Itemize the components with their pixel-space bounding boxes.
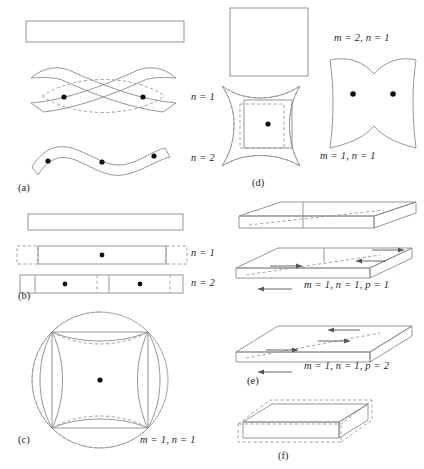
panel-c-bulge-right bbox=[148, 332, 160, 428]
panel-e-p2-arrow-bottom-left bbox=[258, 370, 292, 375]
panel-b-n1-left-dashed bbox=[17, 246, 38, 264]
panel-c-inner-left bbox=[52, 332, 63, 428]
panel-f-group bbox=[238, 400, 372, 442]
panel-b-n1-right-dashed bbox=[166, 246, 187, 264]
panel-b-mode-n2 bbox=[20, 275, 183, 293]
panel-c-bulge-top bbox=[52, 332, 148, 344]
panel-c-circle-dashed-left bbox=[32, 312, 100, 430]
panel-b-group bbox=[17, 214, 187, 293]
panel-c-inner-bottom bbox=[52, 419, 148, 428]
panel-a-mode-n2 bbox=[32, 147, 170, 176]
panel-a-label-n1: n = 1 bbox=[191, 91, 215, 102]
panel-d-mode-m1n1 bbox=[222, 86, 300, 166]
panel-e-p1-side-face bbox=[370, 248, 412, 278]
panel-a-node-dot bbox=[45, 158, 50, 163]
panel-b-label-n2: n = 2 bbox=[191, 277, 215, 288]
panel-f-side-face bbox=[339, 404, 368, 438]
panel-a-caption: (a) bbox=[18, 182, 30, 193]
panel-b-node-dot bbox=[100, 253, 105, 258]
panel-d-label-mode-m1n1: m = 1, n = 1 bbox=[320, 150, 376, 161]
panel-e-p1-front-face bbox=[236, 268, 370, 278]
panel-e-hidden-edge bbox=[249, 210, 384, 225]
panel-c-bulge-bottom bbox=[52, 416, 148, 428]
figure-canvas bbox=[0, 0, 424, 469]
panel-d-label-mode-m2n1: m = 2, n = 1 bbox=[334, 32, 390, 43]
panel-d-node-dot bbox=[350, 91, 356, 97]
panel-e-p1-hidden-edge bbox=[246, 255, 380, 275]
panel-e-top-face bbox=[239, 202, 416, 216]
panel-e-label-mode-p2: m = 1, n = 1, p = 2 bbox=[304, 360, 389, 371]
panel-c-label-mode: m = 1, n = 1 bbox=[140, 434, 196, 445]
panel-c-node-dot bbox=[97, 377, 102, 382]
panel-a-mode-n1 bbox=[31, 68, 176, 113]
panel-a-node-dot bbox=[61, 94, 66, 99]
panel-a-envelope-upper bbox=[42, 80, 165, 97]
panel-e-front-face bbox=[239, 216, 374, 228]
panel-b-caption: (b) bbox=[18, 290, 30, 301]
panel-c-inner-top bbox=[52, 332, 148, 341]
panel-f-dashed-side bbox=[341, 400, 372, 442]
panel-c-circle-dashed-bottom bbox=[54, 430, 146, 448]
panel-d-m2n1-shape bbox=[330, 59, 416, 148]
panel-e-p2-arrow-top-left bbox=[328, 328, 360, 333]
panel-d-node-dot bbox=[265, 121, 270, 126]
panel-b-label-n1: n = 1 bbox=[191, 247, 215, 258]
panel-e-p2-hidden-edge bbox=[246, 333, 380, 358]
panel-a-group bbox=[26, 21, 184, 175]
panel-b-mode-n1 bbox=[17, 246, 187, 264]
panel-d-undeformed-square bbox=[230, 8, 308, 76]
vibration-modes-figure: n = 1 n = 2 (a) n = 1 n = 2 (b) m = 1, n… bbox=[0, 0, 424, 469]
panel-c-caption: (c) bbox=[18, 434, 30, 445]
panel-e-side-face bbox=[374, 202, 416, 228]
panel-b-n2-bar bbox=[20, 275, 183, 293]
panel-f-caption: (f) bbox=[278, 450, 289, 461]
panel-e-p2-side-face bbox=[370, 326, 412, 362]
panel-a-node-dot bbox=[151, 153, 156, 158]
panel-d-caption: (d) bbox=[252, 177, 264, 188]
panel-a-node-dot bbox=[99, 159, 104, 164]
panel-d-mode-m2n1 bbox=[330, 59, 416, 148]
panel-e-p2-top-face bbox=[236, 326, 412, 352]
panel-c-group bbox=[32, 312, 168, 448]
panel-e-p1-arrow-bottom-left bbox=[258, 287, 292, 292]
panel-a-undeformed-bar bbox=[26, 21, 184, 42]
panel-c-bulge-left bbox=[40, 332, 52, 428]
panel-b-node-dot bbox=[63, 282, 68, 287]
panel-e-label-mode-p1: m = 1, n = 1, p = 1 bbox=[304, 279, 389, 290]
panel-b-node-dot bbox=[138, 282, 143, 287]
panel-e-p2-arrow-mid-right bbox=[318, 339, 350, 344]
panel-a-node-dot bbox=[140, 94, 145, 99]
panel-e-undeformed-plate bbox=[239, 202, 416, 228]
panel-b-undeformed-bar bbox=[28, 214, 183, 230]
panel-c-inner-right bbox=[138, 332, 149, 428]
panel-f-dashed-front bbox=[238, 424, 341, 442]
panel-a-label-n2: n = 2 bbox=[191, 152, 215, 163]
panel-d-node-dot bbox=[390, 91, 396, 97]
panel-e-caption: (e) bbox=[247, 375, 259, 386]
panel-d-m1n1-inner-square-dashed bbox=[240, 104, 284, 148]
